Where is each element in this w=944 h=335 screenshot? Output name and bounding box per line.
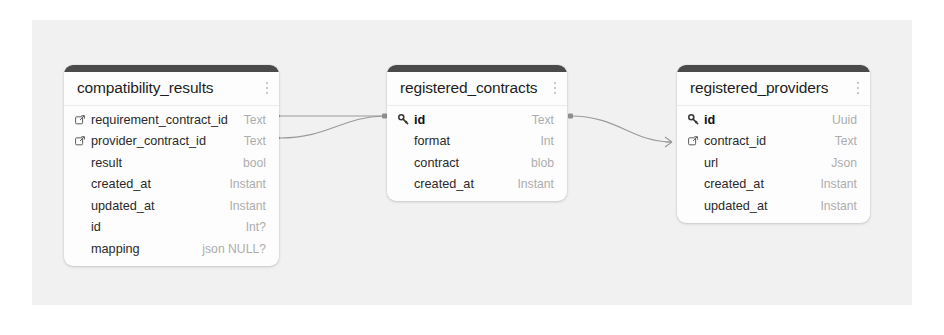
table-row[interactable]: mapping json NULL? [64, 238, 279, 260]
primary-key-icon [688, 114, 701, 125]
table-row[interactable]: format Int [387, 131, 567, 153]
column-type: Instant [219, 177, 266, 191]
column-type: Instant [507, 177, 554, 191]
card-header[interactable]: registered_providers [677, 72, 870, 106]
column-type: Int [530, 134, 554, 148]
edge-contract-to-provider [570, 116, 672, 142]
column-type: Text [825, 134, 857, 148]
table-row[interactable]: updated_at Instant [64, 195, 279, 217]
table-row[interactable]: requirement_contract_id Text [64, 109, 279, 131]
column-name: updated_at [91, 199, 155, 213]
foreign-key-icon [688, 136, 701, 146]
column-name: format [414, 134, 450, 148]
column-name: contract [414, 156, 459, 170]
column-type: Text [522, 113, 554, 127]
edge-provider-to-contract [280, 116, 384, 138]
table-row[interactable]: url Json [677, 152, 870, 174]
column-name: requirement_contract_id [91, 113, 228, 127]
table-row[interactable]: id Int? [64, 217, 279, 239]
column-type: blob [521, 156, 554, 170]
table-row[interactable]: contract blob [387, 152, 567, 174]
column-type: json NULL? [192, 242, 266, 256]
card-header[interactable]: registered_contracts [387, 72, 567, 106]
table-row[interactable]: provider_contract_id Text [64, 131, 279, 153]
table-row[interactable]: result bool [64, 152, 279, 174]
column-name: id [91, 220, 101, 234]
table-card-registered-contracts[interactable]: registered_contracts id Text for [387, 65, 567, 201]
primary-key-icon [398, 114, 411, 125]
column-type: Uuid [822, 113, 857, 127]
column-name: provider_contract_id [91, 134, 206, 148]
column-list: requirement_contract_id Text provider_co… [64, 106, 279, 266]
table-title: compatibility_results [77, 79, 213, 97]
column-list: id Uuid contract_id Text url Json [677, 106, 870, 223]
column-name: id [414, 113, 425, 127]
table-row[interactable]: created_at Instant [677, 174, 870, 196]
foreign-key-icon [75, 115, 88, 125]
column-type: Int? [236, 220, 266, 234]
column-type: Json [821, 156, 857, 170]
column-name: created_at [704, 177, 764, 191]
column-name: result [91, 156, 122, 170]
card-accent-bar [64, 65, 279, 72]
column-name: url [704, 156, 718, 170]
kebab-menu-icon[interactable] [848, 82, 860, 95]
erd-canvas[interactable]: compatibility_results requirement_contra… [32, 20, 912, 305]
foreign-key-icon [75, 136, 88, 146]
table-row[interactable]: id Uuid [677, 109, 870, 131]
table-row[interactable]: id Text [387, 109, 567, 131]
table-row[interactable]: created_at Instant [64, 174, 279, 196]
column-type: Text [234, 113, 266, 127]
column-type: Text [234, 134, 266, 148]
card-header[interactable]: compatibility_results [64, 72, 279, 106]
column-type: Instant [810, 177, 857, 191]
table-row[interactable]: contract_id Text [677, 131, 870, 153]
column-type: bool [233, 156, 266, 170]
column-name: created_at [414, 177, 474, 191]
table-card-compatibility-results[interactable]: compatibility_results requirement_contra… [64, 65, 279, 266]
column-name: id [704, 113, 715, 127]
table-card-registered-providers[interactable]: registered_providers id Uuid [677, 65, 870, 223]
card-accent-bar [677, 65, 870, 72]
table-row[interactable]: created_at Instant [387, 174, 567, 196]
kebab-menu-icon[interactable] [257, 82, 269, 95]
table-title: registered_contracts [400, 79, 537, 97]
column-name: mapping [91, 242, 140, 256]
column-name: updated_at [704, 199, 768, 213]
column-name: created_at [91, 177, 151, 191]
column-type: Instant [810, 199, 857, 213]
kebab-menu-icon[interactable] [545, 82, 557, 95]
table-row[interactable]: updated_at Instant [677, 195, 870, 217]
column-name: contract_id [704, 134, 766, 148]
column-list: id Text format Int contract blob created… [387, 106, 567, 201]
column-type: Instant [219, 199, 266, 213]
table-title: registered_providers [690, 79, 828, 97]
card-accent-bar [387, 65, 567, 72]
